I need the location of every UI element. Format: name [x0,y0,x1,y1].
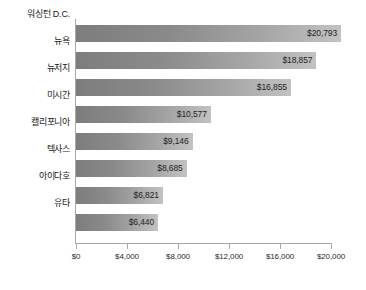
category-label: 아이다호 [0,168,70,185]
bar[interactable]: $6,440 [76,214,158,231]
bar[interactable]: $20,793 [76,25,341,42]
x-tick-label: $0 [72,252,81,261]
category-label: 미시간 [0,87,70,104]
bar-row: $16,855 [76,79,331,96]
x-tick-label: $12,000 [215,252,243,261]
bar-row: $6,440 [76,214,331,231]
x-tick-mark [331,244,332,249]
bar[interactable]: $18,857 [76,52,316,69]
category-label: 캘리포니아 [0,114,70,131]
bar-value-label: $16,855 [257,79,287,96]
bar-row: $8,685 [76,160,331,177]
bar[interactable]: $8,685 [76,160,187,177]
bar-row: $18,857 [76,52,331,69]
bar-row: $9,146 [76,133,331,150]
bar-value-label: $20,793 [307,25,337,42]
x-tick-label: $4,000 [115,252,139,261]
bar-value-label: $6,440 [129,214,154,231]
bar[interactable]: $9,146 [76,133,193,150]
x-axis-line [75,243,332,244]
bar[interactable]: $10,577 [76,106,211,123]
category-label: 뉴저지 [0,60,70,77]
x-tick-label: $20,000 [317,252,345,261]
x-tick-label: $8,000 [166,252,190,261]
bar-value-label: $8,685 [157,160,182,177]
bar-row: $20,793 [76,25,331,42]
bar-chart: $20,793$18,857$16,855$10,577$9,146$8,685… [0,0,366,290]
category-label: 워싱턴 D.C. [0,6,70,23]
x-tick-mark [178,244,179,249]
bar-value-label: $6,821 [134,187,159,204]
bar[interactable]: $16,855 [76,79,291,96]
x-tick-mark [229,244,230,249]
bar-row: $6,821 [76,187,331,204]
x-tick-label: $16,000 [266,252,294,261]
category-label: 유타 [0,195,70,212]
category-label: 텍사스 [0,141,70,158]
bar[interactable]: $6,821 [76,187,163,204]
category-label: 뉴욕 [0,33,70,50]
x-tick-mark [280,244,281,249]
bar-value-label: $18,857 [282,52,312,69]
x-tick-mark [76,244,77,249]
plot-area: $20,793$18,857$16,855$10,577$9,146$8,685… [76,19,331,243]
bar-row: $10,577 [76,106,331,123]
bar-value-label: $10,577 [177,106,207,123]
bar-value-label: $9,146 [163,133,188,150]
x-tick-mark [127,244,128,249]
